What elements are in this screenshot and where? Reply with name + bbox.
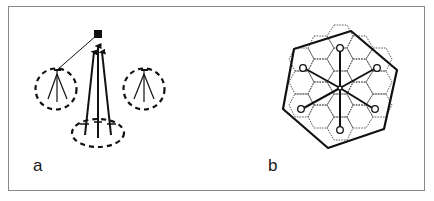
tripod-icon bbox=[134, 70, 154, 102]
node-upper-right bbox=[374, 65, 381, 72]
node-upper-left bbox=[300, 65, 307, 72]
node-top bbox=[337, 45, 344, 52]
bottom-station bbox=[72, 46, 124, 147]
tripod-icon bbox=[48, 70, 67, 102]
arrow-left bbox=[85, 52, 94, 135]
panel-b bbox=[283, 25, 397, 148]
link-line bbox=[57, 35, 97, 70]
right-station bbox=[124, 69, 165, 110]
node-lower-left bbox=[298, 106, 305, 113]
left-station bbox=[36, 69, 77, 110]
figure-canvas bbox=[0, 0, 434, 201]
left-dashed-circle bbox=[36, 69, 77, 110]
arrow-right bbox=[102, 52, 111, 135]
node-bottom bbox=[337, 127, 344, 134]
panel-a bbox=[36, 30, 165, 147]
node-lower-right bbox=[372, 106, 379, 113]
center-node bbox=[338, 86, 342, 90]
panel-label-b: b bbox=[268, 157, 277, 174]
upward-arrows bbox=[80, 46, 116, 138]
panel-label-a: a bbox=[33, 157, 42, 174]
receiver-square-icon bbox=[94, 30, 102, 38]
